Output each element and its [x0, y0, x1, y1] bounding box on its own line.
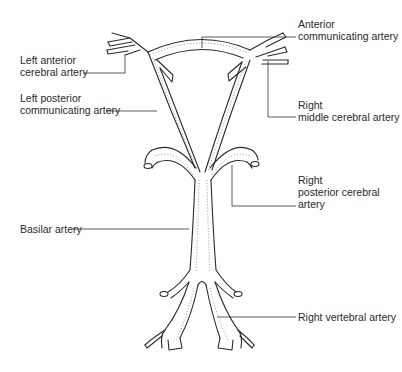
label-line: Basilar artery: [20, 223, 82, 235]
label-left-posterior-communicating-artery: Left posterior communicating artery: [20, 92, 120, 116]
label-line: Right vertebral artery: [298, 311, 396, 323]
vessels: [107, 33, 288, 350]
label-right-middle-cerebral-artery: Right middle cerebral artery: [298, 99, 400, 123]
label-line: middle cerebral artery: [298, 111, 400, 123]
label-line: artery: [298, 198, 380, 210]
label-anterior-communicating-artery: Anterior communicating artery: [298, 18, 398, 42]
label-right-vertebral-artery: Right vertebral artery: [298, 311, 396, 323]
label-line: Right: [298, 99, 400, 111]
label-line: Right: [298, 174, 380, 186]
label-line: Anterior: [298, 18, 398, 30]
label-line: Left posterior: [20, 92, 120, 104]
label-left-anterior-cerebral-artery: Left anterior cerebral artery: [20, 54, 88, 78]
label-right-posterior-cerebral-artery: Right posterior cerebral artery: [298, 174, 380, 210]
leader-lines: [73, 37, 296, 317]
label-line: cerebral artery: [20, 66, 88, 78]
label-line: communicating artery: [20, 104, 120, 116]
label-line: posterior cerebral: [298, 186, 380, 198]
label-line: communicating artery: [298, 30, 398, 42]
label-line: Left anterior: [20, 54, 88, 66]
label-basilar-artery: Basilar artery: [20, 223, 82, 235]
